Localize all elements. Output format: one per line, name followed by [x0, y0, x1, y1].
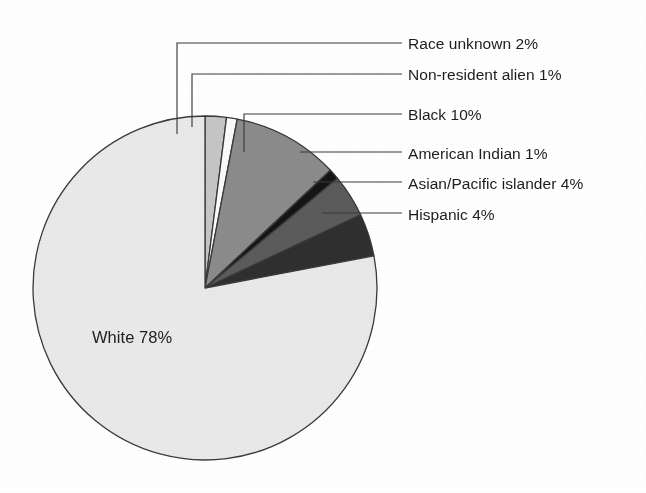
pie-label-asian-pacific-islander: Asian/Pacific islander 4% — [408, 176, 583, 192]
pie-label-american-indian: American Indian 1% — [408, 146, 548, 162]
pie-label-hispanic: Hispanic 4% — [408, 207, 495, 223]
pie-label-white: White 78% — [92, 328, 172, 347]
pie-label-race-unknown: Race unknown 2% — [408, 36, 538, 52]
pie-label-non-resident-alien: Non-resident alien 1% — [408, 67, 562, 83]
pie-chart-figure: Race unknown 2%Non-resident alien 1%Blac… — [0, 0, 646, 493]
pie-label-black: Black 10% — [408, 107, 482, 123]
pie-slice-group — [33, 116, 377, 460]
